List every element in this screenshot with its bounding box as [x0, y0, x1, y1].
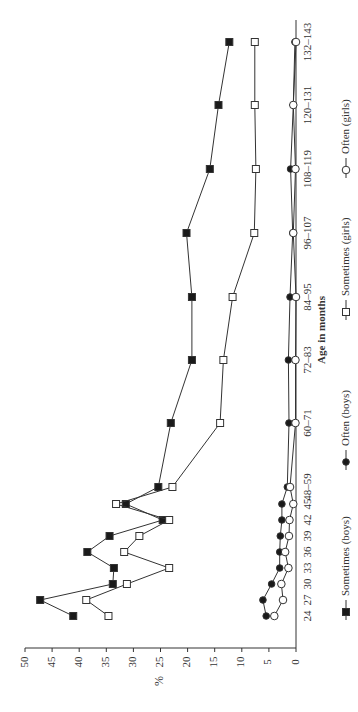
open-circle-marker	[286, 516, 294, 524]
open-circle-marker	[278, 580, 286, 588]
open-square-marker	[251, 39, 258, 46]
open-square-marker	[113, 501, 120, 508]
filled-circle-marker	[343, 459, 350, 466]
legend-label: Sometimes (boys)	[339, 516, 352, 596]
series-line	[263, 42, 295, 616]
filled-square-marker	[110, 565, 117, 572]
open-square-marker	[251, 102, 258, 109]
legend-item: Often (boys)	[339, 390, 352, 470]
legend-label: Often (girls)	[339, 99, 352, 154]
open-circle-marker	[292, 38, 300, 46]
open-circle-marker	[279, 596, 287, 604]
value-tick-label: 0	[289, 659, 301, 665]
filled-square-marker	[155, 484, 162, 491]
category-axis-title: Age in months	[315, 295, 327, 364]
open-circle-marker	[292, 419, 300, 427]
open-square-marker	[136, 533, 143, 540]
open-square-marker	[252, 166, 259, 173]
value-tick-label: 30	[126, 656, 138, 668]
legend-item: Sometimes (boys)	[339, 516, 352, 620]
open-circle-marker	[289, 500, 297, 508]
filled-square-marker	[188, 357, 195, 364]
series-often-girls	[271, 38, 300, 620]
rotated-line-chart: Sometimes (boys)Often (boys)Sometimes (g…	[0, 0, 358, 712]
series-sometimes-boys	[37, 39, 233, 620]
open-square-marker	[123, 581, 130, 588]
filled-square-marker	[206, 166, 213, 173]
open-circle-marker	[292, 165, 300, 173]
filled-circle-marker	[263, 613, 270, 620]
legend-label: Sometimes (girls)	[339, 217, 352, 296]
category-tick-label: 108–119	[301, 149, 313, 188]
filled-square-marker	[188, 294, 195, 301]
series-often-boys	[260, 39, 299, 620]
open-square-marker	[229, 294, 236, 301]
filled-square-marker	[343, 609, 350, 616]
category-tick-label: 96–107	[301, 216, 313, 250]
filled-circle-marker	[285, 357, 292, 364]
filled-square-marker	[183, 230, 190, 237]
filled-square-marker	[84, 549, 91, 556]
value-tick-label: 50	[18, 656, 30, 668]
value-tick-label: 40	[72, 656, 84, 668]
category-tick-label: 27	[301, 594, 313, 606]
open-square-marker	[166, 565, 173, 572]
legend-item: Sometimes (girls)	[339, 217, 352, 320]
filled-square-marker	[70, 613, 77, 620]
filled-square-marker	[226, 39, 233, 46]
series-line	[40, 42, 229, 616]
category-tick-label: 36	[301, 546, 313, 558]
value-tick-label: 25	[153, 656, 165, 668]
open-square-marker	[220, 357, 227, 364]
open-circle-marker	[285, 532, 293, 540]
value-tick-label: 45	[45, 656, 57, 668]
category-tick-label: 33	[301, 562, 313, 574]
open-circle-marker	[292, 356, 300, 364]
filled-square-marker	[215, 102, 222, 109]
open-circle-marker	[289, 101, 297, 109]
series-line	[86, 42, 256, 616]
filled-square-marker	[106, 533, 113, 540]
open-circle-marker	[281, 548, 289, 556]
filled-square-marker	[37, 597, 44, 604]
value-tick-label: 35	[99, 656, 111, 668]
open-square-marker	[121, 549, 128, 556]
open-circle-marker	[289, 229, 297, 237]
filled-square-marker	[109, 581, 116, 588]
open-square-marker	[343, 309, 350, 316]
value-tick-label: 10	[234, 656, 246, 668]
filled-circle-marker	[277, 533, 284, 540]
category-tick-label: 39	[301, 530, 313, 542]
value-tick-label: 15	[207, 656, 219, 668]
open-square-marker	[105, 613, 112, 620]
open-circle-marker	[292, 293, 300, 301]
open-circle-marker	[286, 483, 294, 491]
category-tick-label: 132–143	[301, 22, 313, 61]
open-circle-marker	[285, 564, 293, 572]
category-tick-label: 42	[301, 515, 313, 526]
filled-circle-marker	[279, 501, 286, 508]
filled-square-marker	[167, 420, 174, 427]
open-square-marker	[83, 597, 90, 604]
filled-circle-marker	[276, 565, 283, 572]
chart-series	[37, 38, 300, 620]
value-tick-label: 5	[261, 659, 273, 665]
category-tick-label: 120–131	[301, 86, 313, 125]
filled-circle-marker	[268, 581, 275, 588]
category-tick-label: 48–59	[301, 473, 313, 501]
category-tick-label: 72–83	[301, 346, 313, 374]
open-circle-marker	[342, 166, 350, 174]
category-tick-label: 30	[301, 578, 313, 590]
open-square-marker	[169, 484, 176, 491]
legend-item: Often (girls)	[339, 99, 352, 178]
open-square-marker	[166, 517, 173, 524]
value-tick-label: 20	[180, 656, 192, 668]
filled-circle-marker	[279, 517, 286, 524]
open-square-marker	[251, 230, 258, 237]
category-tick-label: 84–95	[301, 283, 313, 311]
value-axis-title: %	[152, 676, 166, 686]
open-circle-marker	[271, 612, 279, 620]
legend-label: Often (boys)	[339, 390, 352, 446]
open-square-marker	[217, 420, 224, 427]
category-tick-label: 24	[301, 610, 313, 622]
